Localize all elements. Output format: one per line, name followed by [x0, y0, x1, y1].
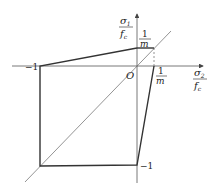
- x-pos-one-over-m-label: 1 m: [156, 66, 167, 86]
- y-neg-one-label: −1: [140, 161, 153, 171]
- svg-text:1: 1: [158, 66, 164, 76]
- y-axis-label: σ1 fc: [119, 15, 133, 40]
- origin-label: O: [126, 70, 134, 81]
- svg-text:fc: fc: [119, 28, 128, 40]
- svg-text:m: m: [140, 39, 149, 49]
- svg-text:1: 1: [142, 29, 148, 39]
- svg-text:fc: fc: [193, 80, 202, 92]
- failure-envelope-diagram: σ1 fc σ2 fc O −1 −1 1 m 1 m: [0, 0, 217, 193]
- svg-text:m: m: [156, 76, 165, 86]
- y-pos-one-over-m-label: 1 m: [139, 29, 151, 49]
- x-axis-label: σ2 fc: [193, 67, 207, 92]
- diagonal-line: [25, 31, 171, 182]
- svg-text:σ2: σ2: [194, 67, 205, 79]
- x-neg-one-label: −1: [25, 62, 38, 72]
- svg-text:σ1: σ1: [120, 15, 131, 27]
